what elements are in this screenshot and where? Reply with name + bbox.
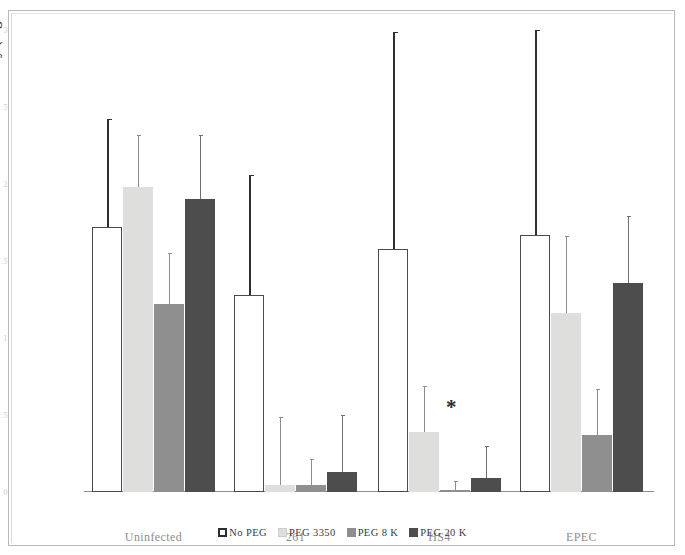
error-bar <box>311 459 312 485</box>
y-axis-tick-label: 0.5 <box>0 410 8 420</box>
error-bar-cap <box>596 389 600 390</box>
error-bar-cap <box>627 216 631 217</box>
bar-slot <box>185 30 215 492</box>
bar[interactable] <box>234 295 264 492</box>
bar[interactable] <box>582 435 612 492</box>
bar[interactable] <box>551 313 581 492</box>
error-bar-cap <box>565 236 569 237</box>
y-axis-tick-label: 1.5 <box>0 256 8 266</box>
bar[interactable] <box>327 472 357 492</box>
y-axis-tick-label: 3 <box>0 25 8 35</box>
bar-slot <box>154 30 184 492</box>
bar-slot <box>471 30 501 492</box>
significance-asterisk: * <box>446 397 457 418</box>
legend-item[interactable]: PEG 3350 <box>278 527 336 538</box>
bar-group <box>378 30 502 492</box>
bar-slot <box>92 30 122 492</box>
legend-item[interactable]: No PEG <box>218 527 267 538</box>
error-bar <box>107 119 109 227</box>
bar-group <box>520 30 644 492</box>
error-bar <box>138 135 139 187</box>
bar-slot <box>520 30 550 492</box>
bar-group-bars <box>92 30 216 492</box>
bar-slot <box>440 30 470 492</box>
bar[interactable] <box>409 432 439 492</box>
error-bar-cap <box>279 417 283 418</box>
error-bar <box>535 30 537 235</box>
error-bar <box>486 446 487 478</box>
error-bar <box>280 417 281 485</box>
square-mid-gray-swatch <box>347 528 356 537</box>
error-bar <box>455 481 456 490</box>
error-bar-cap <box>393 32 398 33</box>
y-axis-tick-label: 2.5 <box>0 102 8 112</box>
error-bar-cap <box>310 459 314 460</box>
error-bar-cap <box>137 135 141 136</box>
bar[interactable] <box>265 485 295 492</box>
error-bar-cap <box>485 446 489 447</box>
square-dark-gray-swatch <box>409 528 418 537</box>
bar[interactable] <box>154 304 184 492</box>
error-bar <box>200 135 201 200</box>
error-bar <box>342 415 343 472</box>
y-axis-tick-label: 2 <box>0 179 8 189</box>
error-bar <box>597 389 598 435</box>
bar-slot <box>265 30 295 492</box>
error-bar-cap <box>423 386 427 387</box>
legend-item-label: PEG 20 K <box>420 527 466 538</box>
bar-slot <box>551 30 581 492</box>
legend-item-label: PEG 3350 <box>289 527 336 538</box>
bar[interactable] <box>185 199 215 492</box>
bar-slot <box>613 30 643 492</box>
y-axis-tick-label: 0 <box>0 487 8 497</box>
error-bar <box>628 216 629 282</box>
bar[interactable] <box>440 490 470 492</box>
bar[interactable] <box>92 227 122 492</box>
error-bar <box>393 32 395 249</box>
bar[interactable] <box>520 235 550 492</box>
plot-area: 00.511.522.53 Uninfected261HS4EPEC * <box>84 30 654 492</box>
chart-legend: No PEGPEG 3350PEG 8 KPEG 20 K <box>0 527 685 538</box>
y-axis-tick-label: 1 <box>0 333 8 343</box>
error-bar <box>424 386 425 432</box>
bar-group-bars <box>378 30 502 492</box>
bar-slot <box>582 30 612 492</box>
error-bar-cap <box>168 253 172 254</box>
bar-slot <box>378 30 408 492</box>
bar[interactable] <box>471 478 501 492</box>
square-light-gray-swatch <box>278 528 287 537</box>
square-outline-swatch <box>218 528 227 537</box>
bar-slot <box>327 30 357 492</box>
bar-group <box>234 30 358 492</box>
error-bar-cap <box>107 119 112 120</box>
bar-group-bars <box>234 30 358 492</box>
bar[interactable] <box>123 187 153 492</box>
error-bar-cap <box>454 481 458 482</box>
error-bar-cap <box>249 175 254 176</box>
bar[interactable] <box>378 249 408 492</box>
bar-group <box>92 30 216 492</box>
error-bar-cap <box>535 30 540 31</box>
legend-item-label: No PEG <box>229 527 267 538</box>
chart-figure: MMP-1 Activity (mg/mL) 00.511.522.53 Uni… <box>0 0 685 555</box>
error-bar-cap <box>199 135 203 136</box>
legend-item[interactable]: PEG 20 K <box>409 527 466 538</box>
error-bar <box>169 253 170 304</box>
bar[interactable] <box>613 283 643 492</box>
error-bar <box>566 236 567 313</box>
bar-slot <box>234 30 264 492</box>
bar[interactable] <box>296 485 326 492</box>
bar-slot <box>296 30 326 492</box>
error-bar <box>249 175 251 295</box>
error-bar-cap <box>341 415 345 416</box>
bar-slot <box>123 30 153 492</box>
legend-item-label: PEG 8 K <box>358 527 399 538</box>
legend-item[interactable]: PEG 8 K <box>347 527 399 538</box>
bar-group-bars <box>520 30 644 492</box>
bar-slot <box>409 30 439 492</box>
